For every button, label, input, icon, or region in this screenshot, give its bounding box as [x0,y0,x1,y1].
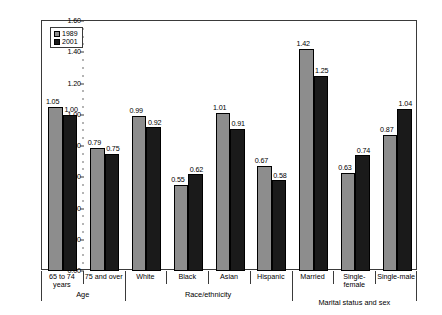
bar-2001-married [314,76,329,271]
bar-value-label: 1.04 [399,100,412,107]
bar-1989-single--female [341,173,356,271]
bar-2001-single--female [355,155,370,271]
bar-value-label: 0.67 [255,157,268,164]
bar-1989-65-to-74-years [48,107,63,271]
bar-value-label: 0.74 [357,147,370,154]
x-axis-category-label: Hispanic [250,273,292,281]
bar-value-label: 0.62 [190,166,203,173]
bar-2001-white [146,127,161,271]
bar-value-label: 0.58 [273,172,286,179]
bar-1989-single-male [383,135,398,271]
x-axis-category-label: White [125,273,167,281]
bar-value-label: 0.87 [380,126,393,133]
bar-value-label: 1.05 [46,98,59,105]
x-axis-category-label: Married [292,273,334,281]
bar-value-label: 0.99 [129,107,142,114]
x-axis-category-separator [375,271,376,284]
bar-value-label: 1.42 [297,40,310,47]
bar-2001-asian [230,129,245,271]
bar-value-label: 0.91 [232,120,245,127]
bar-value-label: 0.55 [171,176,184,183]
x-axis-category-label: 75 and over [83,273,125,281]
bar-1989-black [174,185,189,271]
bar-value-label: 1.00 [64,106,77,113]
bar-2001-hispanic [272,180,287,271]
bar-value-label: 0.79 [88,139,101,146]
bar-1989-asian [216,113,231,271]
bar-value-label: 0.75 [106,145,119,152]
bar-value-label: 1.01 [213,104,226,111]
bar-1989-married [299,49,314,271]
x-axis-group-label: Race/ethnicity [125,291,292,299]
bar-2001-65-to-74-years [63,115,78,271]
x-axis-category-separator [83,271,84,284]
x-axis-category-separator [208,271,209,284]
x-axis-area: 65 to 74 years75 and overWhiteBlackAsian… [41,271,417,315]
x-axis-category-separator [333,271,334,284]
bar-value-label: 0.92 [148,119,161,126]
x-axis-group-label: Marital status and sex [292,299,417,307]
plot-area: Ratio of mean values 0.000.200.400.600.8… [41,20,417,270]
bar-1989-white [132,116,147,271]
x-axis-category-label: Black [166,273,208,281]
x-axis-category-separator [166,271,167,284]
x-axis-category-label: Single-male [375,273,417,281]
bar-2001-single-male [397,109,412,272]
bar-value-label: 1.25 [315,67,328,74]
x-axis-category-label: 65 to 74 years [41,273,83,290]
x-axis-group-label: Age [41,291,125,299]
bar-series-container: 1.051.000.790.750.990.920.550.621.010.91… [42,21,416,269]
chart-figure: Ratio of mean values 0.000.200.400.600.8… [0,0,442,315]
bar-2001-black [188,174,203,271]
bar-value-label: 0.63 [338,164,351,171]
x-axis-group-separator [292,271,293,301]
x-axis-category-label: Asian [208,273,250,281]
x-axis-group-separator [416,271,417,301]
x-axis-category-label: Single- female [333,273,375,290]
bar-2001-75-and-over [105,154,120,271]
x-axis-category-separator [250,271,251,284]
bar-1989-hispanic [257,166,272,271]
bar-1989-75-and-over [90,148,105,271]
